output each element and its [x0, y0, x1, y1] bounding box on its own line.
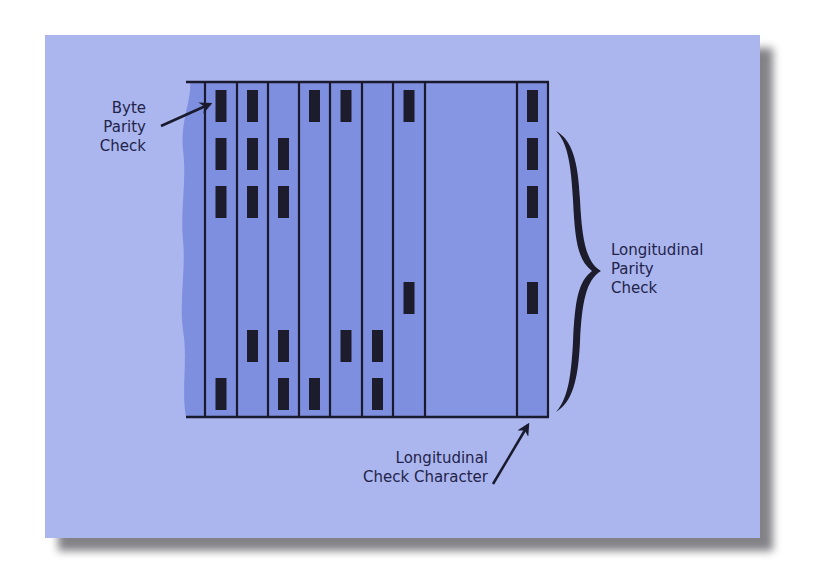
- bit-mark: [216, 378, 227, 410]
- bit-mark: [341, 330, 352, 362]
- bit-mark: [372, 330, 383, 362]
- bit-mark: [309, 90, 320, 122]
- bit-mark: [527, 282, 538, 314]
- byte-parity-check-label: Byte Parity Check: [96, 99, 146, 156]
- check-character-arrow: [493, 425, 528, 484]
- bit-mark: [527, 186, 538, 218]
- label-line: Check Character: [352, 468, 488, 487]
- label-line: Check: [96, 137, 146, 156]
- bit-mark: [527, 138, 538, 170]
- longitudinal-parity-brace-icon: [556, 131, 601, 412]
- longitudinal-parity-check-label: Longitudinal Parity Check: [611, 241, 703, 298]
- label-line: Check: [611, 279, 703, 298]
- longitudinal-check-character-label: Longitudinal Check Character: [352, 449, 488, 487]
- label-line: Longitudinal: [352, 449, 488, 468]
- bit-mark: [278, 186, 289, 218]
- bit-mark: [247, 90, 258, 122]
- bit-mark: [341, 90, 352, 122]
- label-line: Parity: [611, 260, 703, 279]
- bit-mark: [404, 90, 415, 122]
- bit-mark: [278, 138, 289, 170]
- bit-mark: [216, 138, 227, 170]
- tape-gap-column: [425, 82, 517, 417]
- bit-mark: [247, 330, 258, 362]
- bit-mark: [278, 330, 289, 362]
- bit-mark: [527, 90, 538, 122]
- bit-mark: [309, 378, 320, 410]
- label-line: Parity: [96, 118, 146, 137]
- bit-mark: [404, 282, 415, 314]
- label-line: Byte: [96, 99, 146, 118]
- bit-mark: [372, 378, 383, 410]
- bit-mark: [278, 378, 289, 410]
- bit-mark: [247, 186, 258, 218]
- bit-mark: [247, 138, 258, 170]
- bit-mark: [216, 90, 227, 122]
- bit-mark: [216, 186, 227, 218]
- label-line: Longitudinal: [611, 241, 703, 260]
